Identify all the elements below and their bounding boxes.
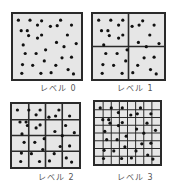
data-point <box>35 52 38 55</box>
data-point <box>153 24 156 27</box>
data-point <box>121 72 124 75</box>
data-point <box>17 19 20 22</box>
data-point <box>36 24 39 27</box>
data-point <box>102 157 105 160</box>
panel-label-level-1: レベル 1 <box>117 82 154 93</box>
data-point <box>26 29 29 32</box>
data-point <box>23 141 26 144</box>
data-point <box>41 148 44 151</box>
data-point <box>124 59 127 62</box>
data-point <box>30 152 33 155</box>
data-point <box>28 19 31 22</box>
data-point <box>35 113 38 116</box>
data-point <box>100 29 103 32</box>
data-point <box>110 106 113 109</box>
data-point <box>104 52 107 55</box>
data-point <box>135 128 138 131</box>
data-point <box>107 118 110 121</box>
data-point <box>66 33 69 36</box>
data-point <box>59 19 62 22</box>
data-point <box>53 130 56 133</box>
data-point <box>99 106 102 109</box>
data-point <box>112 64 115 67</box>
data-point <box>40 33 43 36</box>
data-point <box>54 64 57 67</box>
data-point <box>157 42 160 45</box>
data-point <box>35 126 38 129</box>
grid-panel-level-0 <box>11 12 83 81</box>
grid-panel-level-2 <box>10 102 81 169</box>
data-point <box>149 142 152 145</box>
data-point <box>67 68 70 71</box>
data-point <box>26 124 29 127</box>
data-point <box>106 29 109 32</box>
data-point <box>68 114 71 117</box>
data-point <box>38 160 41 163</box>
data-point <box>20 132 23 135</box>
data-point <box>121 19 124 22</box>
data-point <box>18 120 21 123</box>
data-point <box>103 149 106 152</box>
data-point <box>24 52 27 55</box>
data-point <box>22 43 25 46</box>
data-point <box>33 141 36 144</box>
data-point <box>142 132 145 135</box>
data-point <box>136 112 139 115</box>
data-point <box>20 152 23 155</box>
data-point <box>146 153 149 156</box>
panel-label-level-2: レベル 2 <box>38 171 75 182</box>
data-point <box>19 160 22 163</box>
data-point <box>131 25 134 28</box>
data-point <box>136 64 139 67</box>
data-point <box>103 130 106 133</box>
data-point <box>43 137 46 140</box>
grid-plot <box>93 14 164 79</box>
data-point <box>141 19 144 22</box>
data-point <box>73 131 76 134</box>
data-point <box>137 41 140 44</box>
data-point <box>57 108 60 111</box>
data-point <box>154 129 157 132</box>
panel-label-level-3: レベル 3 <box>117 171 154 182</box>
data-point <box>121 121 124 124</box>
data-point <box>39 72 42 75</box>
data-point <box>101 72 104 75</box>
data-point <box>101 63 104 66</box>
data-point <box>108 122 111 125</box>
data-point <box>145 122 148 125</box>
grid-panel-level-3 <box>93 100 162 166</box>
grid-plot <box>12 104 79 167</box>
data-point <box>116 52 119 55</box>
data-point <box>143 56 146 59</box>
data-point <box>65 156 68 159</box>
data-point <box>75 42 78 45</box>
data-point <box>70 24 73 27</box>
data-point <box>27 34 30 37</box>
data-point <box>59 145 62 148</box>
data-point <box>131 71 134 74</box>
data-point <box>21 63 24 66</box>
grid-panel-level-1 <box>91 12 166 81</box>
data-point <box>116 138 119 141</box>
data-point <box>68 144 71 147</box>
data-point <box>60 56 63 59</box>
data-point <box>62 45 65 48</box>
data-point <box>151 158 154 161</box>
data-point <box>148 33 151 36</box>
data-point <box>102 43 105 46</box>
data-point <box>129 113 132 116</box>
data-point <box>70 56 73 59</box>
data-point <box>121 33 124 36</box>
data-point <box>39 123 42 126</box>
data-point <box>44 48 47 51</box>
data-point <box>72 72 75 75</box>
data-point <box>97 19 100 22</box>
data-point <box>49 25 52 28</box>
grid-plot <box>13 14 81 79</box>
data-point <box>117 124 120 127</box>
data-point <box>139 106 142 109</box>
data-point <box>149 68 152 71</box>
data-point <box>50 71 53 74</box>
data-point <box>155 72 158 75</box>
data-point <box>130 156 133 159</box>
